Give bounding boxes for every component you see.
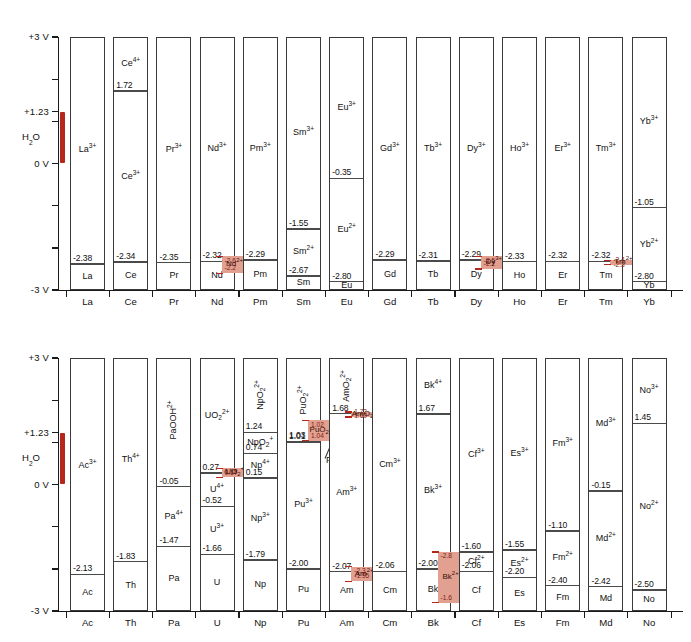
value-Pu-2: -2.00 [289,559,308,568]
value-Cf-0: -1.60 [462,542,481,551]
species-label-Yb-1: Yb2+ [632,240,667,249]
value-Eu-1: -2.80 [332,272,351,281]
axis-separator-tick [325,612,326,618]
segment-divider [373,259,406,260]
element-label-Cm: Cm [372,617,407,628]
axis-label-bottom: -3 V [0,605,49,616]
column-Cf[interactable] [459,358,494,611]
column-No[interactable] [632,358,667,611]
axis-separator-tick [411,291,412,297]
value-Bk-1: -2.00 [419,559,438,568]
axis-separator-tick [498,612,499,618]
axis-separator-tick [584,612,585,618]
segment-divider [589,586,622,587]
column-Fm[interactable] [545,358,580,611]
value-Cm-0: -2.06 [375,561,394,570]
highlight-tick-bottom [345,581,352,582]
axis-label-top: +3 V [0,31,49,42]
column-Cm[interactable] [372,358,407,611]
highlight-tick-bottom [302,440,309,441]
segment-divider [244,477,277,478]
element-label-Pr: Pr [156,296,191,307]
segment-divider [503,261,536,262]
axis-tick [52,484,58,485]
species-label-U-2: U3+ [200,525,235,534]
element-label-U: U [200,617,235,628]
segment-divider [546,585,579,586]
column-Th[interactable] [113,358,148,611]
element-label-Fm: Fm [545,617,580,628]
segment-divider [589,490,622,491]
value-Gd-0: -2.29 [375,250,394,259]
axis-separator-tick [195,291,196,297]
species-label-Fm-2: Fm [545,593,580,602]
potential-diagram-figure: +3 V+1.230 V-3 VH2OLa3+La-2.38LaCe4+Ce3+… [0,0,691,642]
segment-divider [633,589,666,590]
value-Yb-1: -2.80 [635,272,654,281]
axis-label-bottom: -3 V [0,284,49,295]
element-label-Ce: Ce [113,296,148,307]
element-label-Eu: Eu [329,296,364,307]
element-label-Bk: Bk [416,617,451,628]
column-Yb[interactable] [632,37,667,290]
water-stability-bar [60,112,65,164]
species-label-Pm-1: Pm [243,270,278,279]
axis-separator-tick [282,612,283,618]
axis-label-top: +3 V [0,352,49,363]
species-label-Am-0: AmO22+ [342,368,351,403]
species-label-La-1: La [70,272,105,281]
axis-tick [52,568,58,569]
species-label-Cm-0: Cm3+ [372,460,407,469]
value-Yb-0: -1.05 [635,198,654,207]
species-label-Pa-2: Pa [156,574,191,583]
species-label-Np-4: Np [243,580,278,589]
species-label-Bk-1: Bk3+ [416,486,451,495]
axis-separator-tick [627,291,628,297]
species-label-Pu-2: Pu [286,585,321,594]
voltage-axis [58,37,59,290]
element-label-Dy: Dy [459,296,494,307]
axis-label-zero: 0 V [0,158,49,169]
species-label-U-0: UO22+ [200,411,235,420]
species-label-Pa-1: Pa4+ [156,512,191,521]
species-label-Eu-2: Eu [329,281,364,290]
highlight-tick-top [475,256,482,257]
axis-label-water-potential: +1.23 [0,427,49,438]
segment-divider [157,546,190,547]
segment-divider [114,261,147,262]
species-label-Am-1: Am3+ [329,488,364,497]
segment-divider [201,554,234,555]
highlight-tick-top [345,566,352,567]
axis-separator-tick [671,612,672,618]
element-label-La: La [70,296,105,307]
axis-tick-water [52,432,58,433]
axis-tick [52,526,58,527]
species-label-Nd-0: Nd3+ [200,144,235,153]
element-label-Th: Th [113,617,148,628]
species-label-Pa-0: PaOOH2+ [169,405,178,440]
species-label-Sm-2: Sm [286,278,321,287]
segment-divider [157,486,190,487]
species-label-Bk-0: Bk4+ [416,381,451,390]
segment-divider [373,571,406,572]
species-label-Eu-0: Eu3+ [329,103,364,112]
species-label-Er-1: Er [545,271,580,280]
axis-separator-tick [541,291,542,297]
axis-separator-tick [152,612,153,618]
axis-separator-tick [584,291,585,297]
axis-separator-tick [109,612,110,618]
value-Eu-0: -0.35 [332,168,351,177]
segment-divider [287,568,320,569]
species-label-Md-0: Md3+ [588,419,623,428]
element-label-Np: Np [243,617,278,628]
column-Eu[interactable] [329,37,364,290]
segment-divider [71,263,104,264]
element-label-Yb: Yb [632,296,667,307]
element-label-Am: Am [329,617,364,628]
value-Np-2: 0.15 [246,468,262,477]
species-label-Tm-0: Tm3+ [588,144,623,153]
segment-divider [244,259,277,260]
species-label-Es-2: Es [502,589,537,598]
species-label-Er-0: Er3+ [545,144,580,153]
value-Md-1: -2.42 [591,577,610,586]
